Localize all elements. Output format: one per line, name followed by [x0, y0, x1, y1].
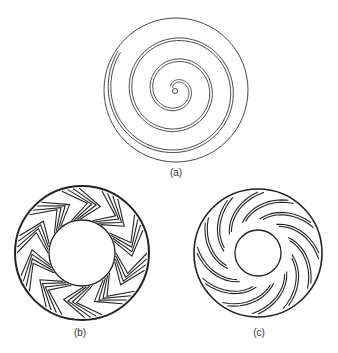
label-b: (b) — [74, 327, 86, 338]
chevron-annulus-figure-b — [15, 186, 149, 320]
slotted-annulus-figure-c — [194, 189, 322, 317]
label-a: (a) — [170, 167, 182, 178]
label-c: (c) — [253, 327, 265, 338]
spiral-figure-a — [104, 18, 248, 162]
